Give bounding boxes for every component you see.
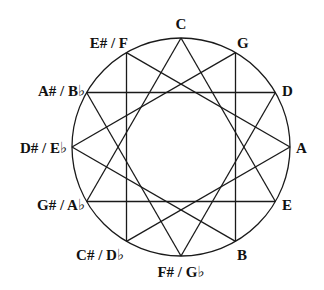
- note-label: D# / E♭: [20, 140, 67, 156]
- triad-edge: [87, 38, 181, 202]
- note-label: F# / G♭: [157, 264, 204, 280]
- outer-circle: [72, 38, 290, 256]
- note-label: C# / D♭: [76, 247, 124, 263]
- triad-edge: [72, 147, 236, 241]
- triad-edge: [87, 93, 181, 257]
- note-label: A: [296, 140, 307, 156]
- triad-edge: [181, 93, 275, 257]
- note-label: E: [282, 197, 292, 213]
- note-label: G# / A♭: [37, 197, 85, 213]
- note-label: G: [237, 35, 249, 51]
- note-label: A# / B♭: [38, 83, 85, 99]
- note-label: D: [282, 83, 293, 99]
- triad-chords: [72, 38, 290, 256]
- note-label: B: [237, 247, 247, 263]
- note-label: C: [176, 16, 187, 32]
- triad-edge: [127, 147, 291, 241]
- diagram-canvas: CGDAEBF# / G♭C# / D♭G# / A♭D# / E♭A# / B…: [0, 0, 324, 290]
- triad-edge: [72, 53, 236, 147]
- note-labels: CGDAEBF# / G♭C# / D♭G# / A♭D# / E♭A# / B…: [20, 16, 307, 280]
- triad-edge: [127, 53, 291, 147]
- note-label: E# / F: [90, 35, 128, 51]
- circle-of-fifths-diagram: CGDAEBF# / G♭C# / D♭G# / A♭D# / E♭A# / B…: [0, 0, 324, 290]
- triad-edge: [181, 38, 275, 202]
